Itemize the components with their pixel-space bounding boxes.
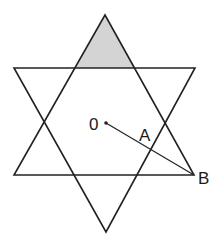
label-a: A (139, 126, 151, 145)
center-point (104, 121, 108, 125)
label-center: 0 (89, 115, 98, 134)
hexagram-diagram: 0 A B (0, 0, 223, 243)
label-b: B (198, 169, 209, 188)
shaded-top-triangle (76, 15, 135, 68)
downward-triangle (14, 68, 195, 232)
